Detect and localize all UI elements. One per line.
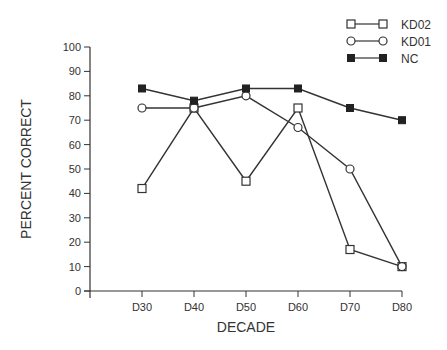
y-tick-label: 20 bbox=[69, 236, 81, 248]
open-square-marker bbox=[242, 177, 250, 185]
open-square-marker bbox=[347, 20, 355, 28]
y-tick-label: 50 bbox=[69, 163, 81, 175]
y-tick-label: 80 bbox=[69, 90, 81, 102]
series-line-nc bbox=[142, 88, 402, 120]
x-tick-label: D40 bbox=[184, 301, 204, 313]
filled-square-marker bbox=[348, 55, 355, 62]
series-group bbox=[138, 85, 406, 271]
open-circle-marker bbox=[138, 104, 146, 112]
filled-square-marker bbox=[139, 85, 146, 92]
y-tick-label: 30 bbox=[69, 212, 81, 224]
y-tick-label: 100 bbox=[63, 41, 81, 53]
x-tick-label: D80 bbox=[392, 301, 412, 313]
open-circle-marker bbox=[398, 263, 406, 271]
line-chart: 0102030405060708090100D30D40D50D60D70D80… bbox=[0, 0, 447, 350]
filled-square-marker bbox=[380, 55, 387, 62]
x-tick-label: D60 bbox=[288, 301, 308, 313]
open-circle-marker bbox=[294, 124, 302, 132]
open-square-marker bbox=[138, 185, 146, 193]
legend-item-nc: NC bbox=[348, 52, 419, 66]
open-circle-marker bbox=[347, 37, 355, 45]
legend-label: KD02 bbox=[401, 18, 431, 32]
axes: 0102030405060708090100D30D40D50D60D70D80 bbox=[63, 41, 412, 313]
legend-item-kd01: KD01 bbox=[347, 35, 431, 49]
y-tick-label: 90 bbox=[69, 65, 81, 77]
filled-square-marker bbox=[191, 97, 198, 104]
y-tick-label: 10 bbox=[69, 261, 81, 273]
y-axis-title: PERCENT CORRECT bbox=[18, 99, 34, 239]
y-tick-label: 40 bbox=[69, 187, 81, 199]
legend-label: KD01 bbox=[401, 35, 431, 49]
series-line-kd01 bbox=[142, 96, 402, 267]
series-markers-kd01 bbox=[138, 92, 406, 271]
legend-item-kd02: KD02 bbox=[347, 18, 431, 32]
series-line-kd02 bbox=[142, 108, 402, 267]
open-circle-marker bbox=[379, 37, 387, 45]
open-square-marker bbox=[294, 104, 302, 112]
x-tick-label: D70 bbox=[340, 301, 360, 313]
y-tick-label: 70 bbox=[69, 114, 81, 126]
filled-square-marker bbox=[243, 85, 250, 92]
y-tick-label: 0 bbox=[75, 285, 81, 297]
filled-square-marker bbox=[347, 105, 354, 112]
open-circle-marker bbox=[242, 92, 250, 100]
filled-square-marker bbox=[295, 85, 302, 92]
x-tick-label: D50 bbox=[236, 301, 256, 313]
x-axis-title: DECADE bbox=[217, 319, 275, 335]
series-markers-nc bbox=[139, 85, 406, 124]
open-square-marker bbox=[346, 246, 354, 254]
legend-label: NC bbox=[401, 52, 419, 66]
open-square-marker bbox=[379, 20, 387, 28]
series-markers-kd02 bbox=[138, 104, 406, 271]
filled-square-marker bbox=[399, 117, 406, 124]
x-tick-label: D30 bbox=[132, 301, 152, 313]
y-tick-label: 60 bbox=[69, 139, 81, 151]
legend: KD02KD01NC bbox=[347, 18, 431, 66]
open-circle-marker bbox=[190, 104, 198, 112]
open-circle-marker bbox=[346, 165, 354, 173]
